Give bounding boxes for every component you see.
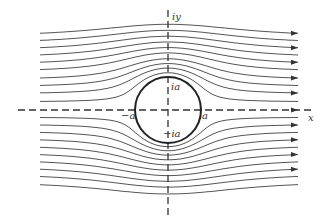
label-minus-ia: −ia — [163, 129, 181, 139]
streamline — [40, 155, 298, 171]
flow-diagram — [0, 0, 336, 219]
arrowhead-icon — [291, 31, 298, 36]
y-axis-label: iy — [172, 12, 181, 22]
arrowhead-icon — [291, 122, 298, 127]
label-minus-a: −a — [121, 111, 135, 121]
streamlines — [40, 24, 298, 194]
streamline — [40, 53, 298, 70]
streamline — [40, 48, 298, 63]
streamline — [40, 162, 298, 176]
streamline — [40, 24, 298, 33]
streamline — [40, 30, 298, 40]
arrowhead-icon — [291, 152, 298, 157]
arrowhead-icon — [291, 45, 298, 50]
x-axis-label: x — [308, 113, 314, 123]
arrowhead-icon — [291, 60, 298, 65]
label-a: a — [202, 111, 208, 121]
arrowhead-icon — [291, 76, 298, 81]
streamline — [40, 185, 298, 194]
label-ia: ia — [171, 82, 180, 92]
streamline — [40, 147, 298, 165]
streamline — [40, 68, 298, 93]
arrowhead-icon — [291, 137, 298, 142]
arrowhead-icon — [291, 167, 298, 172]
arrowhead-icon — [291, 90, 298, 95]
